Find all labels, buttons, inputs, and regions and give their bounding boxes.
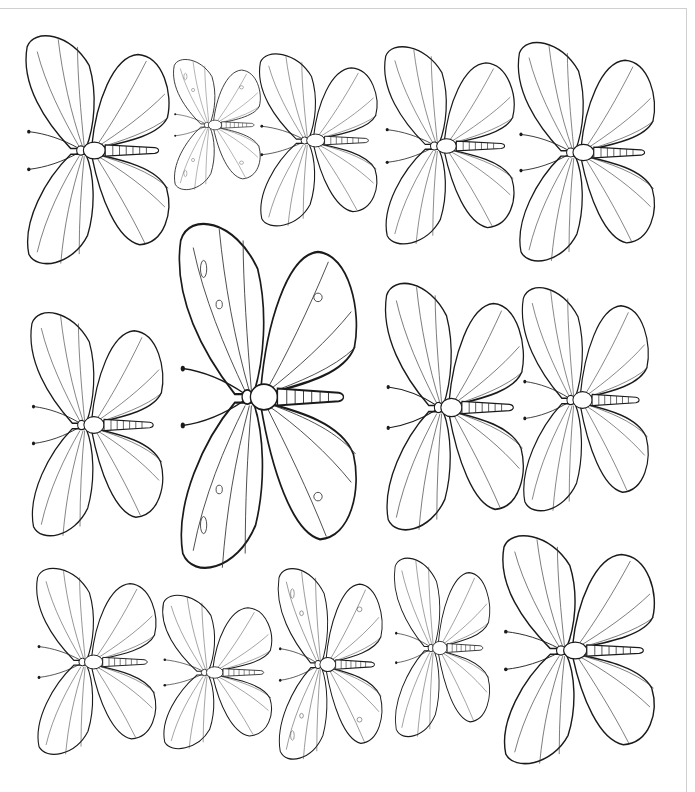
butterfly-illustration [248,48,386,233]
butterfly-illustration [18,305,173,545]
butterfly-illustration [510,280,658,520]
butterfly-illustration [152,590,280,755]
butterfly-illustration [385,552,497,744]
butterfly-illustration [12,28,180,273]
butterfly-illustration [268,562,390,767]
butterfly-illustration [162,212,370,582]
butterfly-illustration [372,40,524,252]
butterfly-illustration [25,562,165,762]
butterfly-illustration [488,528,666,773]
butterfly-illustration [505,35,665,270]
